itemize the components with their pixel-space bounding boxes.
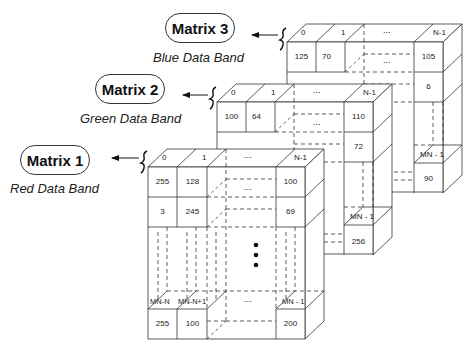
- m1-bottom-ellipsis: ...: [244, 294, 252, 304]
- m2-last-header: MN - 1: [350, 212, 374, 222]
- m1-bottom-cell-0: 255: [148, 319, 177, 329]
- m1-r2-cell-last: 69: [276, 207, 305, 217]
- m1-r1-cell-0: 255: [148, 177, 177, 187]
- m2-cell-1: 64: [242, 112, 271, 122]
- m1-header-ellipsis: ...: [244, 150, 252, 160]
- m2-last-value: 256: [344, 237, 373, 247]
- m3-row-ellipsis: ...: [383, 55, 391, 65]
- m3-cell-row2-last: 6: [414, 82, 443, 92]
- matrix-2-label: Matrix 2: [95, 74, 165, 104]
- m2-row-ellipsis: ...: [313, 117, 321, 127]
- matrix-1-label: Matrix 1: [20, 145, 90, 175]
- m3-header-last: N-1: [433, 28, 446, 38]
- matrix-2-band-label: Green Data Band: [80, 111, 181, 126]
- m3-header-ellipsis: ...: [383, 25, 391, 35]
- m2-cell-row2-last: 72: [344, 142, 373, 152]
- m2-header-ellipsis: ...: [313, 85, 321, 95]
- matrix-3-label: Matrix 3: [165, 13, 235, 43]
- m1-bottom-header-0: MN-N: [150, 297, 170, 307]
- matrix-1-band-label: Red Data Band: [10, 181, 99, 196]
- m2-cell-last: 110: [344, 112, 373, 122]
- m1-header-1: 1: [202, 153, 206, 163]
- m1-r1-cell-1: 128: [178, 177, 207, 187]
- m1-r1-ellipsis: ...: [244, 182, 252, 192]
- m1-r1-cell-last: 100: [276, 177, 305, 187]
- m1-bottom-cell-1: 100: [178, 319, 207, 329]
- m3-cell-last: 105: [414, 52, 443, 62]
- m1-header-last: N-1: [294, 153, 307, 163]
- m3-cell-1: 70: [312, 52, 341, 62]
- m1-bottom-header-1: MN-N+1: [178, 297, 206, 307]
- m2-header-last: N-1: [363, 88, 376, 98]
- m3-header-0: 0: [301, 28, 305, 38]
- m1-header-0: 0: [162, 153, 166, 163]
- m3-header-1: 1: [341, 28, 345, 38]
- m2-header-0: 0: [231, 88, 235, 98]
- m1-bottom-cell-last: 200: [276, 319, 305, 329]
- diagram-canvas: Matrix 3 Blue Data Band Matrix 2 Green D…: [0, 0, 471, 347]
- m2-header-1: 1: [271, 88, 275, 98]
- matrix-3-band-label: Blue Data Band: [153, 50, 244, 65]
- m1-bottom-header-last: MN - 1: [282, 297, 305, 307]
- m1-r2-cell-1: 245: [178, 207, 207, 217]
- m3-last-value: 90: [414, 174, 443, 184]
- m3-last-header: MN - 1: [420, 150, 444, 160]
- m1-r2-cell-0: 3: [148, 207, 177, 217]
